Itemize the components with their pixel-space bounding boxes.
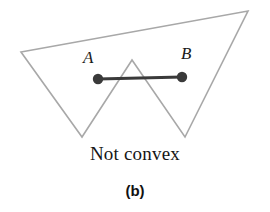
figure-canvas	[0, 0, 270, 212]
point-a-dot	[93, 74, 103, 84]
point-a-label: A	[83, 49, 93, 66]
non-convex-polygon	[21, 11, 248, 137]
figure-container: A B Not convex (b)	[0, 0, 270, 212]
point-b-label: B	[181, 45, 191, 62]
figure-caption: Not convex	[0, 143, 270, 165]
subfigure-tag: (b)	[0, 182, 270, 199]
segment-ab	[98, 77, 182, 79]
point-b-dot	[177, 72, 187, 82]
